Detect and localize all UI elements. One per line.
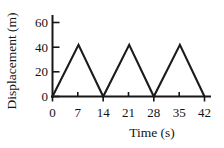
displacement-time-chart: 60 40 20 0 0 7 14 21 28 35 42 Time (s) D… [0,0,224,148]
x-tick-label-42: 42 [198,105,211,120]
y-tick-label-20: 20 [35,64,48,79]
x-tick-label-35: 35 [173,105,186,120]
x-tick-label-0: 0 [49,105,56,120]
x-axis-title: Time (s) [129,125,175,140]
x-tick-label-7: 7 [75,105,82,120]
y-axis-title: Displacement (m) [4,12,19,109]
y-tick-label-60: 60 [35,15,48,30]
x-tick-label-14: 14 [97,105,111,120]
y-tick-label-40: 40 [35,40,48,55]
y-tick-label-0: 0 [42,89,49,104]
chart-canvas: 60 40 20 0 0 7 14 21 28 35 42 Time (s) D… [0,0,224,148]
x-tick-label-21: 21 [122,105,135,120]
data-series-displacement [53,45,205,97]
x-tick-label-28: 28 [147,105,160,120]
